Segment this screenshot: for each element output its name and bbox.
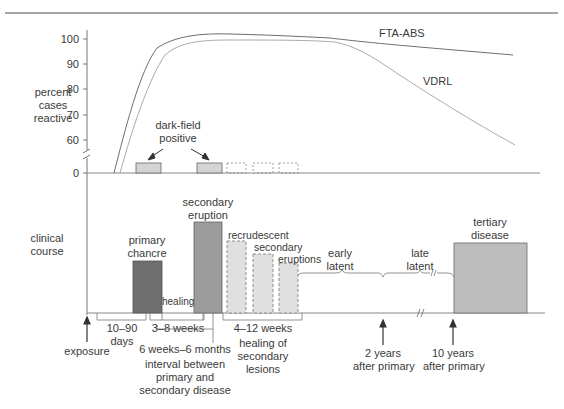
interval-label: 6 weeks–6 months interval between primar…	[135, 343, 235, 397]
fta-abs-curve	[114, 34, 513, 173]
weeks-4-12-label: 4–12 weeks	[230, 322, 296, 335]
tick-100: 100	[57, 33, 79, 45]
tick-90: 90	[57, 58, 79, 70]
tick-80: 80	[57, 83, 79, 95]
recrudescent-bar-3	[279, 263, 298, 313]
tick-70: 70	[57, 109, 79, 121]
darkfield-box-primary	[136, 163, 161, 173]
healing-label: healing	[162, 295, 194, 308]
fta-abs-label: FTA-ABS	[379, 27, 425, 40]
vdrl-label: VDRL	[423, 75, 452, 88]
secondary-eruption-bar	[194, 222, 222, 313]
vdrl-curve	[120, 40, 515, 173]
recrudescent-eruptions-label: eruptions	[278, 253, 321, 266]
two-years-label: 2 years after primary	[353, 347, 413, 373]
tick-0: 0	[57, 167, 79, 179]
recrudescent-bar-1	[227, 241, 246, 313]
recrudescent-bar-2	[253, 254, 273, 313]
darkfield-box-dashed	[279, 163, 298, 173]
ten-years-label: 10 years after primary	[423, 347, 483, 373]
tertiary-disease-label: tertiary disease	[460, 216, 520, 242]
primary-chancre-label: primary chancre	[122, 234, 172, 260]
healing-secondary-label: healing of secondary lesions	[236, 337, 290, 376]
early-latent-label: early latent	[318, 247, 362, 273]
clinical-course-label: clinical course	[27, 232, 67, 258]
darkfield-arrows	[148, 149, 209, 160]
darkfield-box-dashed	[253, 163, 273, 173]
darkfield-box-dashed	[227, 163, 246, 173]
tertiary-disease-bar	[454, 243, 527, 313]
tick-60: 60	[57, 134, 79, 146]
weeks-3-8-label: 3–8 weeks	[150, 322, 206, 335]
secondary-eruption-label: secondary eruption	[178, 196, 238, 222]
primary-chancre-bar	[133, 261, 162, 313]
darkfield-label: dark-field positive	[148, 119, 208, 145]
late-latent-label: late latent	[398, 247, 442, 273]
darkfield-box-secondary	[197, 163, 222, 173]
